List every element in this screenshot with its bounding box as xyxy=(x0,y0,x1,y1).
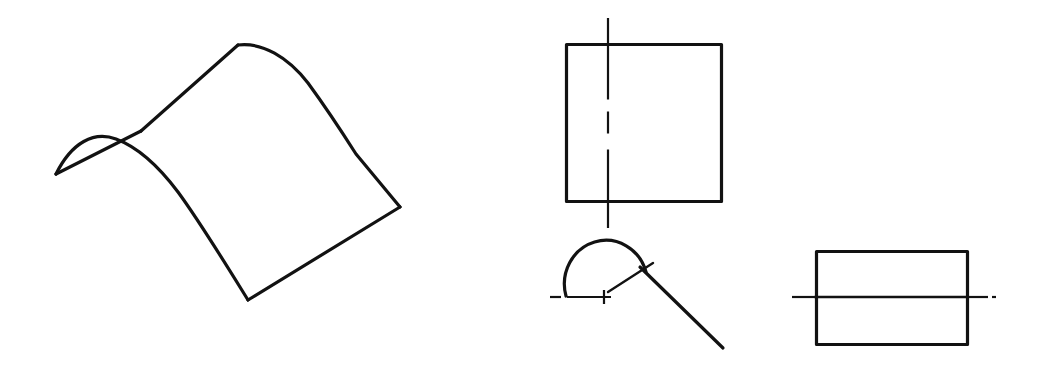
pictorial-view xyxy=(56,45,400,300)
drawing-sheet xyxy=(0,0,1044,372)
front-view-curve xyxy=(550,240,723,348)
pictorial-far-edge-curve xyxy=(238,45,400,207)
front-view-radius-line xyxy=(608,263,653,292)
front-view-tangent-line xyxy=(640,267,723,348)
top-view-square xyxy=(567,18,722,228)
side-view-rectangle xyxy=(792,252,996,345)
top-view-outline xyxy=(567,45,722,202)
pictorial-bottom-edge xyxy=(248,207,400,300)
front-view-arc xyxy=(564,240,646,296)
drawing-canvas xyxy=(0,0,1044,372)
pictorial-ridge-line xyxy=(141,45,238,131)
